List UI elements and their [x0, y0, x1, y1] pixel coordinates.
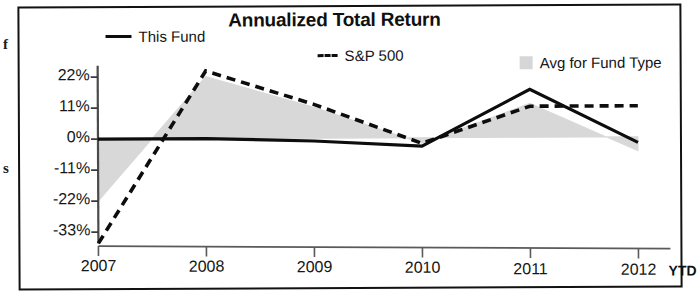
x-tick-label: 2010: [405, 259, 441, 277]
plot-area: 22%11%0%-11%-22%-33% 2007200820092010201…: [19, 6, 684, 293]
chart-svg: [19, 6, 684, 293]
x-tick-label: 2011: [513, 260, 547, 278]
y-tick-label: -33%: [28, 221, 90, 239]
x-tick-label: 2009: [297, 258, 333, 276]
x-axis-ytd-label: YTD: [669, 262, 697, 278]
chart-frame: Annualized Total Return This Fund S&P 50…: [17, 4, 682, 291]
y-tick-label: 22%: [28, 66, 90, 84]
y-tick-label: -22%: [28, 190, 90, 208]
y-tick-label: 11%: [28, 97, 90, 115]
y-tick-label: -11%: [28, 159, 90, 177]
x-tick-label: 2007: [81, 257, 117, 275]
x-axis-tick-labels: 200720082009201020112012: [21, 294, 685, 297]
x-tick-label: 2012: [621, 260, 657, 278]
page-margin-scrap-top: f: [3, 36, 8, 53]
y-tick-label: 0%: [28, 128, 90, 146]
x-tick-label: 2008: [189, 258, 225, 276]
page-margin-scrap-mid: s: [3, 160, 9, 177]
